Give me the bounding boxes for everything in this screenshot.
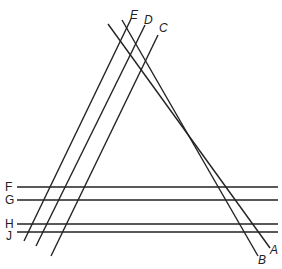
line-d bbox=[36, 25, 145, 246]
parallel-lines-triangle-diagram bbox=[0, 0, 282, 269]
label-c: C bbox=[159, 22, 168, 34]
label-f: F bbox=[5, 181, 12, 193]
label-j: J bbox=[6, 230, 12, 242]
label-d: D bbox=[144, 14, 153, 26]
label-e: E bbox=[130, 9, 138, 21]
line-e bbox=[24, 19, 131, 241]
label-a: A bbox=[270, 244, 278, 256]
line-c bbox=[51, 35, 158, 256]
line-b bbox=[122, 20, 258, 256]
label-g: G bbox=[5, 194, 14, 206]
label-b: B bbox=[258, 254, 266, 266]
